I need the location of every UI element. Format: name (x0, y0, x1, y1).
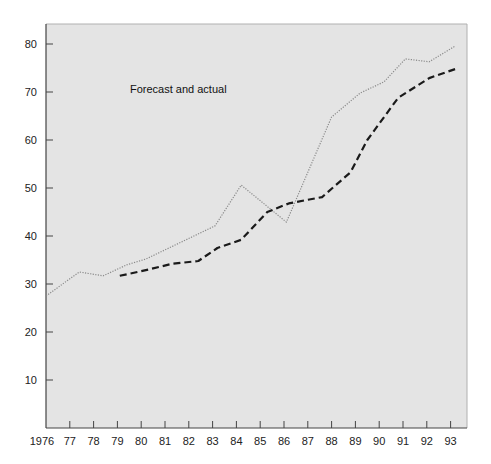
x-tick-label: 81 (159, 435, 171, 447)
x-tick-label: 92 (421, 435, 433, 447)
y-tick-label: 10 (25, 374, 37, 386)
y-tick-label: 60 (25, 134, 37, 146)
x-tick-label: 78 (87, 435, 99, 447)
x-tick-label: 90 (373, 435, 385, 447)
x-tick-label: 77 (64, 435, 76, 447)
x-tick-label: 87 (302, 435, 314, 447)
x-tick-label: 85 (254, 435, 266, 447)
y-tick-label: 80 (25, 38, 37, 50)
y-tick-label: 30 (25, 278, 37, 290)
x-tick-label: 1976 (30, 435, 54, 447)
x-tick-label: 93 (444, 435, 456, 447)
x-tick-label: 88 (325, 435, 337, 447)
plot-area (46, 24, 467, 428)
chart-annotation: Forecast and actual (130, 83, 227, 95)
y-tick-label: 40 (25, 230, 37, 242)
y-tick-label: 70 (25, 86, 37, 98)
y-tick-label: 50 (25, 182, 37, 194)
x-tick-label: 82 (183, 435, 195, 447)
line-chart: 1020304050607080 19767778798081828384858… (0, 0, 491, 464)
x-tick-label: 86 (278, 435, 290, 447)
x-tick-label: 91 (397, 435, 409, 447)
x-tick-label: 84 (230, 435, 242, 447)
x-tick-label: 83 (206, 435, 218, 447)
x-tick-label: 79 (111, 435, 123, 447)
x-tick-label: 80 (135, 435, 147, 447)
y-tick-label: 20 (25, 326, 37, 338)
x-tick-label: 89 (349, 435, 361, 447)
